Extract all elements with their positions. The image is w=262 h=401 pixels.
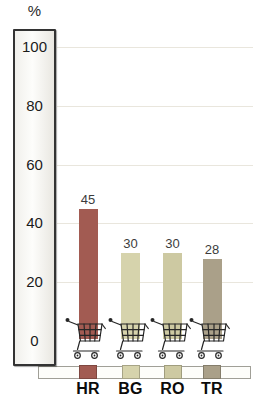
legend-square-RO — [164, 365, 182, 379]
bar-value-label: 28 — [195, 242, 229, 257]
gridline — [57, 165, 253, 166]
legend-square-HR — [79, 365, 97, 379]
gridline — [57, 47, 253, 48]
y-tick-label: 80 — [13, 97, 56, 115]
shopping-cart-icon — [149, 315, 191, 361]
category-label-HR: HR — [68, 380, 108, 398]
legend-square-TR — [203, 365, 221, 379]
bar-chart: % 10080604020045HR30BG30RO28TR — [0, 0, 262, 401]
category-label-BG: BG — [111, 380, 151, 398]
shopping-cart-icon — [188, 315, 230, 361]
category-label-TR: TR — [192, 380, 232, 398]
bar-value-label: 45 — [71, 192, 105, 207]
y-tick-label: 60 — [13, 156, 56, 174]
y-axis-unit-label: % — [13, 2, 56, 19]
bar-value-label: 30 — [156, 236, 190, 251]
y-tick-label: 40 — [13, 214, 56, 232]
shopping-cart-icon — [107, 315, 149, 361]
shopping-cart-icon — [64, 315, 106, 361]
category-label-RO: RO — [153, 380, 193, 398]
gridline — [57, 106, 253, 107]
bar-value-label: 30 — [114, 236, 148, 251]
y-tick-label: 0 — [13, 332, 56, 350]
legend-square-BG — [122, 365, 140, 379]
y-axis-scale-box — [13, 29, 56, 366]
y-tick-label: 100 — [13, 38, 56, 56]
y-tick-label: 20 — [13, 273, 56, 291]
